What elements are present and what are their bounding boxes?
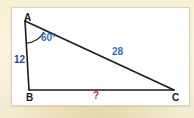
edge-ab	[25, 21, 29, 90]
side-length-label-ac: 28	[112, 47, 123, 57]
triangle-shape	[12, 8, 189, 105]
angle-measure-label-a: 60°	[41, 33, 56, 43]
vertex-label-b: B	[26, 93, 33, 103]
vertex-label-c: C	[172, 93, 179, 103]
geometry-figure: A B C 12 60° 28 ?	[0, 0, 194, 118]
vertex-label-a: A	[24, 13, 31, 23]
side-length-label-ab: 12	[14, 55, 25, 65]
unknown-side-label-bc: ?	[93, 91, 99, 101]
diagram-canvas: A B C 12 60° 28 ?	[11, 7, 190, 106]
